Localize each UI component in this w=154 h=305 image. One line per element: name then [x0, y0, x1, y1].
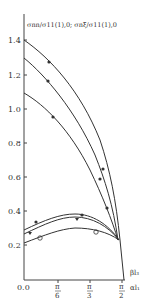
- chart: 1.4 1.2 1.0 0.8 0.6 0.4 0.2 0.0 π 6 π 3 …: [0, 0, 154, 305]
- xtick-pi3-num: π: [87, 283, 92, 291]
- markers: [28, 60, 109, 235]
- marker-triangle: [28, 232, 32, 235]
- curve-upper-1: [24, 40, 124, 280]
- ytick-0.8: 0.8: [8, 139, 21, 148]
- upper-curves: [24, 40, 124, 280]
- marker-triangle: [75, 218, 79, 221]
- x-bottom-label: αl₁: [130, 284, 140, 292]
- ytick-0.2: 0.2: [8, 241, 21, 250]
- xtick-pi3-den: 3: [87, 292, 91, 300]
- xtick-pi6-den: 6: [55, 292, 60, 300]
- ytick-0.6: 0.6: [8, 173, 21, 182]
- marker-dot: [98, 177, 101, 180]
- ytick-1.2: 1.2: [8, 71, 21, 80]
- y-axis-label: σnn/σ11(1),0; σnξ/σ11(1),0: [27, 21, 117, 29]
- marker-dot: [51, 115, 54, 118]
- marker-dot: [46, 79, 49, 82]
- curve-upper-2: [24, 58, 118, 240]
- x-top-label: βl₃: [130, 269, 139, 277]
- marker-dot: [47, 60, 50, 63]
- xtick-pi6-num: π: [55, 283, 60, 291]
- ytick-0.4: 0.4: [8, 207, 21, 216]
- curve-lower-3: [24, 228, 119, 243]
- ytick-1.0: 1.0: [8, 105, 21, 114]
- xtick-pi2-den: 2: [119, 292, 123, 300]
- x-ticks: 0.0 π 6 π 3 π 2: [17, 280, 125, 300]
- curve-upper-3: [24, 93, 118, 240]
- ytick-1.4: 1.4: [8, 36, 21, 45]
- marker-dot: [80, 213, 83, 216]
- marker-dot: [34, 220, 37, 223]
- xtick-0: 0.0: [17, 283, 30, 292]
- marker-dot: [101, 167, 104, 170]
- xtick-pi2-num: π: [119, 283, 124, 291]
- marker-dot: [105, 206, 108, 209]
